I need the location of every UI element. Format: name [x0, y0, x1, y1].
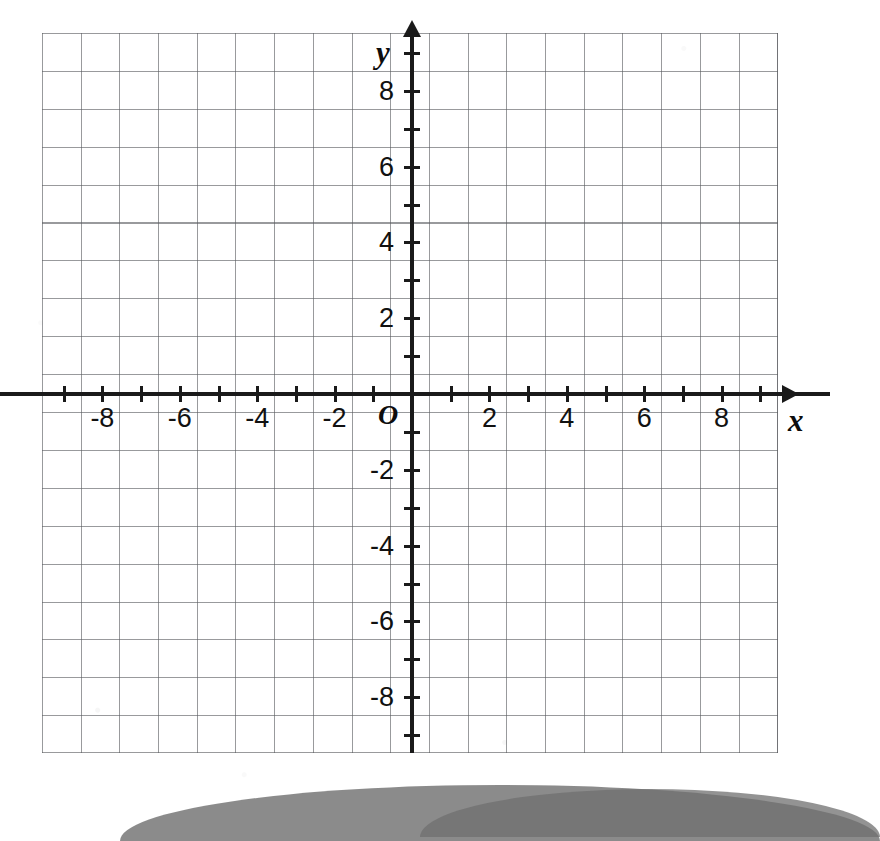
x-axis-tick: [334, 386, 337, 402]
y-axis-tick: [404, 696, 420, 699]
y-axis-tick: [404, 734, 420, 737]
y-axis-tick-label: 6: [342, 153, 394, 180]
x-axis-tick-label: -2: [323, 405, 347, 432]
y-axis-label: y: [376, 37, 390, 68]
x-axis-tick-label: 6: [637, 405, 652, 432]
coordinate-plane: -8-6-4-22468 8642-2-4-6-8 O x y: [42, 33, 778, 753]
x-axis-tick-label: 8: [714, 405, 729, 432]
y-axis-tick: [404, 128, 420, 131]
x-axis-tick: [682, 386, 685, 402]
x-axis-tick: [527, 386, 530, 402]
y-axis-tick: [404, 658, 420, 661]
x-axis-tick: [140, 386, 143, 402]
x-axis-tick-label: -4: [245, 405, 269, 432]
x-axis-arrow-icon: [782, 385, 799, 403]
y-axis-tick: [404, 583, 420, 586]
origin-label: O: [378, 401, 398, 429]
y-axis-tick-label: -6: [342, 608, 394, 635]
x-axis-tick: [566, 386, 569, 402]
x-axis-tick: [295, 386, 298, 402]
y-axis-tick-label: 8: [342, 77, 394, 104]
y-axis-tick: [404, 620, 420, 623]
x-axis-tick: [179, 386, 182, 402]
x-axis-tick: [488, 386, 491, 402]
y-axis-tick-label: 4: [342, 229, 394, 256]
x-axis-tick: [450, 386, 453, 402]
x-axis-tick: [101, 386, 104, 402]
y-axis-tick-label: -4: [342, 532, 394, 559]
y-axis-tick: [404, 545, 420, 548]
x-axis-tick: [643, 386, 646, 402]
y-axis-tick: [404, 204, 420, 207]
x-axis-tick-label: 2: [482, 405, 497, 432]
y-axis-tick: [404, 52, 420, 55]
y-axis-tick: [404, 241, 420, 244]
x-axis-tick-label: 4: [559, 405, 574, 432]
x-axis-label: x: [788, 405, 804, 436]
x-axis-line: [0, 392, 830, 396]
x-axis-tick: [218, 386, 221, 402]
y-axis-arrow-icon: [403, 20, 421, 37]
y-axis-tick-label: -8: [342, 684, 394, 711]
y-axis-tick-label: 2: [342, 305, 394, 332]
y-axis-tick: [404, 431, 420, 434]
y-axis-tick: [404, 507, 420, 510]
y-axis-tick: [404, 317, 420, 320]
y-axis-tick: [404, 355, 420, 358]
x-axis-tick-label: -8: [90, 405, 114, 432]
x-axis-tick: [721, 386, 724, 402]
x-axis-tick: [63, 386, 66, 402]
y-axis-tick: [404, 166, 420, 169]
y-axis-tick: [404, 90, 420, 93]
y-axis-line: [410, 31, 414, 753]
x-axis-tick: [759, 386, 762, 402]
x-axis-tick: [372, 386, 375, 402]
x-axis-tick-label: -6: [168, 405, 192, 432]
x-axis-tick: [605, 386, 608, 402]
y-axis-tick: [404, 279, 420, 282]
y-axis-tick: [404, 469, 420, 472]
x-axis-tick: [256, 386, 259, 402]
y-axis-tick-label: -2: [342, 456, 394, 483]
